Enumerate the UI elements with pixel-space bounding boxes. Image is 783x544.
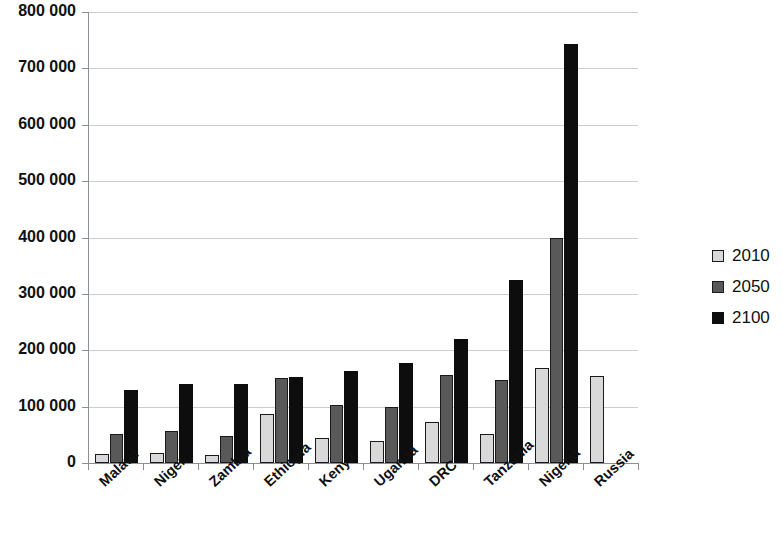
y-axis-tick-label: 200 000 (0, 341, 76, 357)
bar-uganda-2010 (370, 441, 384, 463)
y-axis-tick-label: 700 000 (0, 59, 76, 75)
bar-group (88, 12, 143, 463)
bar-niger-2100 (179, 384, 193, 463)
bar-ethiopia-2050 (275, 378, 289, 463)
legend-swatch-2100-icon (712, 312, 724, 324)
x-axis-tick (198, 464, 199, 470)
x-axis-tick (583, 464, 584, 470)
bar-group (528, 12, 583, 463)
legend-label: 2100 (732, 308, 770, 328)
y-axis-tick-label: 300 000 (0, 285, 76, 301)
bar-group-inner (88, 12, 143, 463)
y-axis-tick (82, 68, 89, 69)
x-axis-tick (418, 464, 419, 470)
bar-tanzania-2100 (509, 280, 523, 463)
x-axis-tick (528, 464, 529, 470)
bar-tanzania-2010 (480, 434, 494, 463)
chart-legend: 201020502100 (712, 246, 782, 339)
bar-group-inner (473, 12, 528, 463)
legend-swatch-2050-icon (712, 281, 724, 293)
legend-label: 2010 (732, 246, 770, 266)
x-axis-tick (143, 464, 144, 470)
bar-group-inner (253, 12, 308, 463)
bar-group (583, 12, 638, 463)
y-axis-tick (82, 350, 89, 351)
y-axis-tick (82, 12, 89, 13)
legend-label: 2050 (732, 277, 770, 297)
y-axis-tick (82, 294, 89, 295)
bar-group (198, 12, 253, 463)
y-axis-tick (82, 181, 89, 182)
y-axis-tick-label: 400 000 (0, 229, 76, 245)
legend-item-2100[interactable]: 2100 (712, 308, 782, 339)
bar-group (253, 12, 308, 463)
x-axis-tick (88, 464, 89, 470)
bar-group-inner (418, 12, 473, 463)
bar-group (363, 12, 418, 463)
y-axis-tick-label: 800 000 (0, 3, 76, 19)
legend-swatch-2010-icon (712, 250, 724, 262)
bar-drc-2010 (425, 422, 439, 463)
y-axis-tick-label: 500 000 (0, 172, 76, 188)
bar-group (308, 12, 363, 463)
x-axis-tick (638, 464, 639, 470)
y-axis-tick (82, 407, 89, 408)
bar-group-inner (583, 12, 638, 463)
legend-item-2010[interactable]: 2010 (712, 246, 782, 277)
bar-zambia-2010 (205, 455, 219, 463)
bar-group-inner (528, 12, 583, 463)
x-axis-tick (308, 464, 309, 470)
bar-chart: 0100 000200 000300 000400 000500 000600 … (0, 0, 783, 544)
plot-area (88, 12, 638, 463)
bar-group-inner (143, 12, 198, 463)
bar-nigeria-2100 (564, 44, 578, 463)
bar-nigeria-2050 (550, 238, 564, 464)
y-axis-tick (82, 238, 89, 239)
bar-group-inner (363, 12, 418, 463)
bar-tanzania-2050 (495, 380, 509, 463)
bar-group (473, 12, 528, 463)
x-axis-tick (363, 464, 364, 470)
bar-niger-2010 (150, 453, 164, 463)
x-axis-tick (253, 464, 254, 470)
x-axis-tick (473, 464, 474, 470)
bar-malawi-2010 (95, 454, 109, 463)
bar-group (418, 12, 473, 463)
y-axis-tick (82, 125, 89, 126)
bar-group-inner (308, 12, 363, 463)
y-axis-tick-label: 100 000 (0, 398, 76, 414)
bar-group (143, 12, 198, 463)
y-axis-tick-label: 0 (0, 454, 76, 470)
bar-drc-2050 (440, 375, 454, 464)
bar-group-inner (198, 12, 253, 463)
bar-drc-2100 (454, 339, 468, 463)
bar-kenya-2010 (315, 438, 329, 463)
legend-item-2050[interactable]: 2050 (712, 277, 782, 308)
bar-nigeria-2010 (535, 368, 549, 463)
bar-russia-2010 (590, 376, 604, 463)
y-axis-tick-label: 600 000 (0, 116, 76, 132)
bar-ethiopia-2010 (260, 414, 274, 463)
